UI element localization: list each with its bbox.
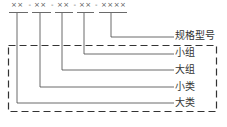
separator: - xyxy=(95,1,98,9)
leader-lines xyxy=(17,13,174,103)
code-group-4: ×× xyxy=(79,1,92,9)
separator: - xyxy=(74,1,77,9)
code-group-5: ×××× xyxy=(101,1,126,9)
label-major-class: 大类 xyxy=(175,98,195,108)
label-spec-model: 规格型号 xyxy=(175,31,215,41)
code-group-3: ×× xyxy=(57,1,70,9)
code-group-1: ×× xyxy=(11,1,24,9)
separator: - xyxy=(51,1,54,9)
label-major-group: 大组 xyxy=(175,65,195,75)
code-group-2: ×× xyxy=(34,1,47,9)
label-subgroup: 小组 xyxy=(175,48,195,58)
separator: - xyxy=(29,1,32,9)
label-subclass: 小类 xyxy=(175,82,195,92)
